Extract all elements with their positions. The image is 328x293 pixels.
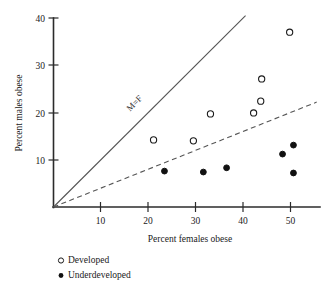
legend-label-developed: Developed xyxy=(68,255,109,265)
x-tick-label-20: 20 xyxy=(143,216,153,226)
m-equals-f-label: M=F xyxy=(124,93,144,113)
y-axis-tick-labels: 40 30 20 10 xyxy=(36,14,46,166)
data-point xyxy=(258,98,264,104)
legend-label-underdeveloped: Underdeveloped xyxy=(68,270,131,280)
y-tick-label-20: 20 xyxy=(36,109,46,119)
chart-annotations: M=F xyxy=(124,93,144,113)
data-point xyxy=(190,138,196,144)
legend-item-developed: Developed xyxy=(56,252,296,267)
open-circle-icon xyxy=(56,255,68,265)
trend-reference-line xyxy=(54,102,317,207)
data-point xyxy=(162,168,168,174)
data-point xyxy=(224,165,230,171)
x-axis-title: Percent females obese xyxy=(148,234,232,244)
data-point xyxy=(200,169,206,175)
series-developed-points xyxy=(150,29,292,144)
data-point xyxy=(150,137,156,143)
y-tick-label-30: 30 xyxy=(36,61,46,71)
data-point xyxy=(291,142,297,148)
x-tick-label-10: 10 xyxy=(96,216,106,226)
y-tick-label-10: 10 xyxy=(36,156,46,166)
x-tick-label-50: 50 xyxy=(286,216,296,226)
data-point xyxy=(251,110,257,116)
reference-lines xyxy=(54,16,317,207)
data-point xyxy=(259,76,265,82)
chart-figure: Percent males obese 40 30 20 10 10 20 xyxy=(0,0,328,293)
equality-reference-line xyxy=(54,16,246,207)
scatter-plot: Percent males obese 40 30 20 10 10 20 xyxy=(0,0,328,248)
x-axis-tick-labels: 10 20 30 40 50 xyxy=(96,216,296,226)
y-axis-title: Percent males obese xyxy=(14,74,24,151)
data-point xyxy=(280,151,286,157)
data-point xyxy=(287,29,293,35)
data-point xyxy=(291,170,297,176)
y-tick-label-40: 40 xyxy=(36,14,46,24)
x-tick-label-30: 30 xyxy=(191,216,201,226)
legend-item-underdeveloped: Underdeveloped xyxy=(56,267,296,282)
chart-legend: Developed Underdeveloped xyxy=(56,252,296,282)
filled-circle-icon xyxy=(56,270,68,280)
x-tick-label-40: 40 xyxy=(238,216,248,226)
data-point xyxy=(207,111,213,117)
series-underdeveloped-points xyxy=(162,142,297,176)
